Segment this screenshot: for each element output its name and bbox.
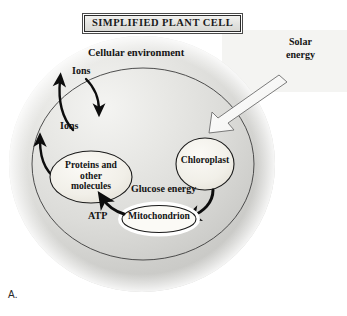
page-title: SIMPLIFIED PLANT CELL xyxy=(92,17,233,29)
label-ions-inward: Ions xyxy=(72,66,90,77)
label-solar-energy-line2: energy xyxy=(286,49,315,60)
organelle-proteins-and-other-molecules xyxy=(50,151,132,203)
label-glucose-energy: Glucose energy xyxy=(131,184,196,195)
panel-letter: A. xyxy=(8,289,17,300)
label-cellular-environment: Cellular environment xyxy=(88,47,184,58)
figure-title-inner: SIMPLIFIED PLANT CELL xyxy=(84,15,241,32)
figure-title-box: SIMPLIFIED PLANT CELL xyxy=(82,13,243,34)
label-atp: ATP xyxy=(88,211,107,222)
simplified-plant-cell-figure: SIMPLIFIED PLANT CELL Cellular environme… xyxy=(0,0,347,316)
cell-sphere xyxy=(9,36,275,292)
label-ions-outward: Ions xyxy=(60,121,78,132)
label-solar-energy-line1: Solar xyxy=(289,36,312,47)
label-solar-energy: Solar energy xyxy=(286,36,315,61)
organelle-mitochondrion xyxy=(120,204,198,235)
